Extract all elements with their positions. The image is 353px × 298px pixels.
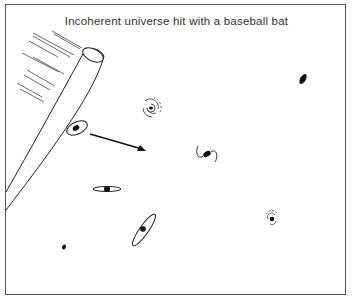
dwarf-galaxy-icon [61,244,67,250]
elliptical-galaxy-icon [298,73,308,85]
edge-on-galaxy-icon [93,186,121,192]
spiral-galaxy-icon [143,98,161,117]
motion-arrow-icon [90,134,146,151]
small-spiral-galaxy-icon [266,211,277,225]
barred-galaxy-icon [197,146,217,162]
diagram-canvas [0,0,353,298]
ring-galaxy-icon [129,212,158,248]
